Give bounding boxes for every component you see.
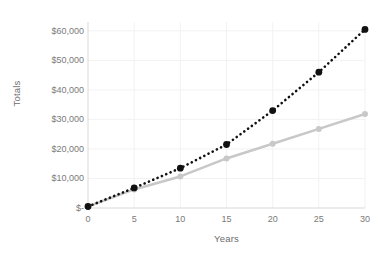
data-point-marker bbox=[177, 173, 183, 179]
x-axis-title: Years bbox=[88, 233, 365, 244]
data-point-marker bbox=[177, 165, 184, 172]
data-point-marker bbox=[224, 155, 230, 161]
data-point-marker bbox=[269, 107, 276, 114]
plot-area bbox=[0, 0, 387, 258]
chart-container: Totals $-$10,000$20,000$30,000$40,000$50… bbox=[0, 0, 387, 258]
data-point-marker bbox=[270, 141, 276, 147]
data-point-marker bbox=[315, 69, 322, 76]
data-point-marker bbox=[316, 126, 322, 132]
data-point-marker bbox=[223, 141, 230, 148]
data-point-marker bbox=[131, 185, 138, 192]
data-point-marker bbox=[85, 203, 92, 210]
data-point-marker bbox=[362, 26, 369, 33]
data-point-marker bbox=[362, 111, 368, 117]
gridlines bbox=[88, 22, 365, 208]
